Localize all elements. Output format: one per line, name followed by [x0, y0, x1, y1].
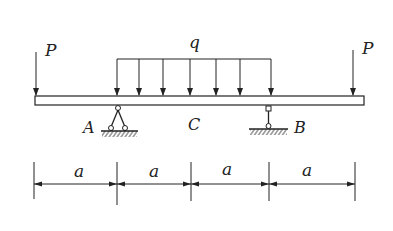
support-a-label: A: [81, 118, 95, 137]
right-point-load: P: [350, 38, 374, 96]
dimension-label-2: a: [149, 161, 159, 181]
support-b-label: B: [293, 118, 306, 137]
left-load-label: P: [44, 40, 57, 60]
beam-diagram: P P q: [0, 0, 393, 231]
left-point-load: P: [33, 40, 57, 96]
dimension-label-1: a: [74, 161, 84, 181]
right-load-label: P: [361, 38, 374, 58]
support-a: A: [81, 106, 138, 138]
support-b: B: [249, 106, 306, 137]
midpoint-c-label: C: [188, 115, 200, 134]
dimension-label-3: a: [222, 159, 232, 179]
distributed-load-label: q: [189, 32, 200, 52]
dimension-label-4: a: [302, 160, 312, 180]
distributed-load: q: [114, 32, 274, 96]
beam: [35, 96, 364, 105]
